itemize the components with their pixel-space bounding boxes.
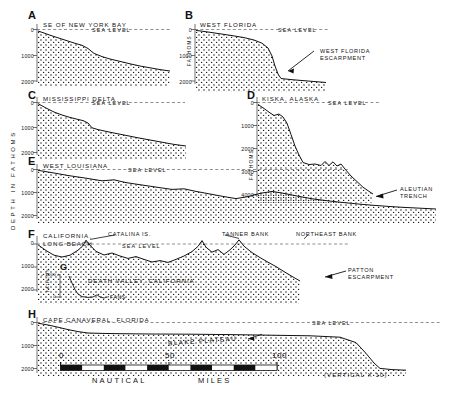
vertical-exaggeration-note: (VERTICAL X 10) bbox=[324, 372, 388, 378]
scale-mid-label: 50 bbox=[165, 351, 175, 360]
figure-bathymetric-profiles: A SE OF NEW YORK BAY SEA LEVEL 0 1000 20… bbox=[0, 0, 460, 403]
panel-label-b: B bbox=[185, 9, 193, 21]
scale-bar bbox=[60, 362, 286, 374]
annotation-line-1: WEST FLORIDA bbox=[320, 48, 370, 54]
annotation-line-2: ESCARPMENT bbox=[320, 55, 366, 61]
profile-plot-b bbox=[178, 24, 338, 94]
annotation-fans: FANS bbox=[110, 294, 126, 301]
axis-tick-g-0: + 1000 bbox=[34, 272, 56, 277]
annotation-west-florida-escarpment: WEST FLORIDA ESCARPMENT bbox=[320, 48, 370, 62]
profile-plot-a bbox=[20, 24, 170, 90]
scale-unit-nautical: NAUTICAL bbox=[92, 376, 147, 385]
axis-tick-g-1: 0 bbox=[34, 294, 56, 299]
scale-unit-miles: MILES bbox=[198, 376, 232, 385]
scale-start-label: 0 bbox=[59, 351, 64, 360]
scale-end-label: 100 bbox=[272, 351, 287, 360]
profile-plot-c bbox=[20, 97, 190, 161]
panel-label-a: A bbox=[28, 9, 36, 21]
profile-plot-e bbox=[20, 164, 440, 226]
